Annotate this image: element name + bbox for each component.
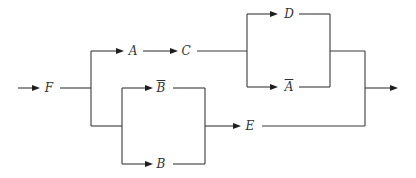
block-a-bar-label: A — [285, 81, 294, 93]
block-f-label: F — [45, 82, 53, 94]
arrowhead-icon — [270, 84, 278, 90]
arrowhead-icon — [116, 48, 124, 54]
block-d-label: D — [284, 8, 294, 20]
arrowhead-icon — [32, 85, 40, 91]
arrowhead-icon — [270, 11, 278, 17]
block-b-label: B — [157, 158, 166, 170]
block-a-label: A — [129, 45, 138, 57]
block-c-label: C — [181, 45, 190, 57]
output-arrowhead-icon — [390, 85, 398, 91]
block-e-label: E — [246, 120, 255, 132]
arrowhead-icon — [145, 85, 153, 91]
block-b-bar-label: B — [157, 82, 166, 94]
arrowhead-icon — [170, 48, 178, 54]
arrowhead-icon — [233, 123, 241, 129]
input-connector — [18, 85, 40, 91]
arrowhead-icon — [145, 161, 153, 167]
reliability-diagram-canvas — [0, 0, 416, 178]
